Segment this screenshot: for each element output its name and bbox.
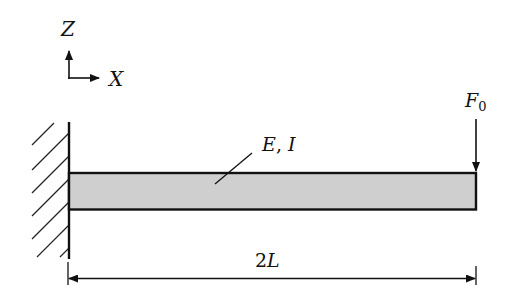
coordinate-axes: Z X (60, 17, 124, 91)
load-subscript: 0 (478, 99, 486, 114)
beam: E, I (69, 133, 476, 210)
elastic-modulus-symbol: E (261, 133, 276, 155)
load-symbol: F (464, 89, 479, 111)
x-axis-label: X (107, 67, 124, 91)
beam-body (69, 173, 476, 210)
dimension-variable: L (266, 249, 280, 271)
point-load: F0 (464, 89, 486, 171)
dimension-label: 2L (255, 249, 280, 271)
wall-hatching (32, 123, 69, 257)
dimension-coefficient: 2 (255, 249, 267, 271)
length-dimension: 2L (68, 249, 476, 285)
load-label: F0 (464, 89, 486, 114)
moment-of-inertia-symbol: I (287, 133, 296, 155)
property-separator: , (276, 133, 288, 155)
z-axis-label: Z (60, 17, 76, 41)
fixed-wall-support (32, 122, 69, 259)
beam-property-label: E, I (261, 133, 296, 155)
cantilever-beam-diagram: Z X E, I F0 2L (0, 0, 515, 302)
